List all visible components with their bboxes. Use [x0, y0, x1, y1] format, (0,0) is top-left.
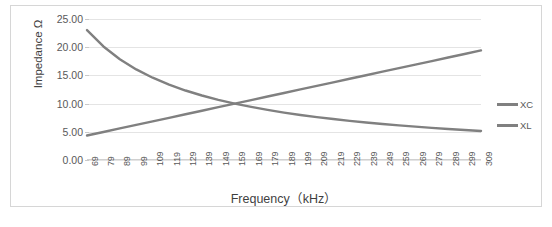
x-tick-label: 199: [304, 152, 313, 166]
x-tick-label: 299: [468, 152, 477, 166]
x-tick-label: 219: [337, 152, 346, 166]
x-tick-label: 259: [402, 152, 411, 166]
y-tick-mark: [85, 160, 89, 161]
x-tick-label: 309: [485, 152, 494, 166]
legend-label: XL: [520, 121, 532, 131]
y-tick-label: 20.00: [57, 42, 83, 53]
x-tick-label: 249: [386, 152, 395, 166]
x-tick-label: 279: [435, 152, 444, 166]
plot-area: [87, 19, 481, 160]
x-tick-label: 189: [288, 152, 297, 166]
x-tick-label: 179: [271, 152, 280, 166]
legend-swatch: [497, 124, 518, 127]
x-tick-label: 209: [320, 152, 329, 166]
y-axis-tick-labels: 0.005.0010.0015.0020.0025.00: [33, 6, 83, 208]
x-tick-label: 119: [173, 152, 182, 166]
x-tick-label: 99: [140, 156, 149, 166]
x-tick-label: 159: [238, 152, 247, 166]
y-tick-label: 10.00: [57, 99, 83, 110]
y-tick-label: 0.00: [63, 155, 83, 166]
y-tick-mark: [85, 47, 89, 48]
series-line-xl: [87, 50, 481, 135]
x-tick-label: 169: [255, 152, 264, 166]
legend-item-xc[interactable]: XC: [497, 94, 545, 115]
series-lines: [87, 19, 481, 160]
x-tick-label: 79: [107, 156, 116, 166]
y-tick-mark: [85, 19, 89, 20]
x-tick-label: 149: [222, 152, 231, 166]
x-tick-label: 229: [353, 152, 362, 166]
y-tick-mark: [85, 132, 89, 133]
x-tick-label: 139: [205, 152, 214, 166]
x-tick-label: 109: [156, 152, 165, 166]
x-axis-title: Frequency（kHz）: [87, 188, 481, 207]
x-tick-label: 269: [419, 152, 428, 166]
legend-swatch: [497, 103, 518, 106]
chart-frame: Impedance Ω 0.005.0010.0015.0020.0025.00…: [10, 5, 542, 207]
legend-label: XC: [520, 100, 533, 110]
y-tick-label: 25.00: [57, 14, 83, 25]
chart-legend: XCXL: [497, 94, 545, 136]
y-tick-mark: [85, 75, 89, 76]
y-tick-label: 5.00: [63, 127, 83, 138]
x-tick-label: 89: [123, 156, 132, 166]
legend-item-xl[interactable]: XL: [497, 115, 545, 136]
x-tick-label: 239: [370, 152, 379, 166]
y-tick-mark: [85, 104, 89, 105]
series-line-xc: [87, 30, 481, 131]
x-tick-label: 289: [452, 152, 461, 166]
x-tick-label: 129: [189, 152, 198, 166]
x-tick-label: 69: [91, 156, 100, 166]
y-tick-label: 15.00: [57, 70, 83, 81]
